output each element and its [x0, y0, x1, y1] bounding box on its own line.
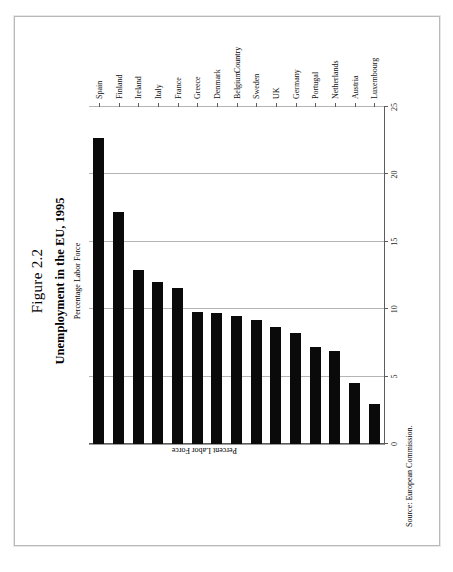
category-tick — [119, 103, 120, 107]
bar — [152, 282, 163, 444]
bar — [290, 333, 301, 444]
bar — [172, 288, 183, 444]
category-tick — [99, 103, 100, 107]
x-tick-label: 20 — [390, 170, 399, 178]
category-label: France — [173, 77, 182, 99]
category-tick — [217, 103, 218, 107]
category-tick — [237, 103, 238, 107]
x-tick-5 — [384, 376, 388, 377]
bar — [310, 347, 321, 444]
bar — [93, 138, 104, 444]
category-tick — [197, 103, 198, 107]
bar — [270, 327, 281, 444]
x-tick-10 — [384, 308, 388, 309]
category-label: Belgium — [232, 71, 241, 99]
figure-rotation-wrapper: Figure 2.2 Unemployment in the EU, 1995 … — [15, 17, 439, 545]
gridline-15 — [89, 241, 384, 242]
category-label: Denmark — [212, 69, 221, 99]
bar — [113, 212, 124, 444]
x-tick-0 — [384, 443, 388, 444]
bar — [192, 312, 203, 444]
bar — [211, 313, 222, 444]
gridline-20 — [89, 173, 384, 174]
figure-header: Figure 2.2 Unemployment in the EU, 1995 … — [27, 31, 82, 531]
x-tick-20 — [384, 173, 388, 174]
category-tick — [355, 103, 356, 107]
category-label: Netherlands — [330, 60, 339, 99]
category-label: Spain — [94, 81, 103, 99]
figure-subtitle: Percentage Labor Force — [73, 31, 82, 531]
figure-number: Figure 2.2 — [29, 31, 46, 531]
category-label: Ireland — [134, 76, 143, 99]
plot-area: 0510152025SpainFinlandIrelandItalyFrance… — [89, 107, 385, 445]
category-label: Portugal — [311, 72, 320, 99]
x-tick-label: 5 — [390, 375, 399, 379]
category-label: Austria — [350, 75, 359, 99]
x-tick-label: 25 — [390, 103, 399, 111]
x-tick-25 — [384, 106, 388, 107]
category-label: Greece — [193, 76, 202, 99]
value-axis-label: Percent Labor Force — [172, 446, 237, 455]
category-label: Germany — [291, 69, 300, 99]
category-tick — [276, 103, 277, 107]
category-tick — [256, 103, 257, 107]
category-label: Luxembourg — [370, 58, 379, 99]
category-tick — [315, 103, 316, 107]
category-tick — [178, 103, 179, 107]
category-label: Italy — [153, 84, 162, 99]
bar — [329, 351, 340, 444]
figure-title: Unemployment in the EU, 1995 — [53, 31, 68, 531]
category-tick — [158, 103, 159, 107]
bar — [251, 320, 262, 444]
figure: Figure 2.2 Unemployment in the EU, 1995 … — [27, 31, 427, 531]
category-tick — [138, 103, 139, 107]
bar — [349, 383, 360, 444]
scanned-page: Figure 2.2 Unemployment in the EU, 1995 … — [14, 16, 440, 546]
category-label: Sweden — [252, 74, 261, 99]
x-tick-label: 15 — [390, 238, 399, 246]
category-axis-label: Country — [233, 47, 242, 73]
x-tick-label: 0 — [390, 442, 399, 446]
category-tick — [335, 103, 336, 107]
category-tick — [296, 103, 297, 107]
bar — [369, 404, 380, 444]
bar — [231, 316, 242, 444]
category-tick — [374, 103, 375, 107]
category-label: UK — [271, 87, 280, 99]
source-note: Source: European Commission. — [405, 425, 414, 527]
x-tick-15 — [384, 241, 388, 242]
x-tick-label: 10 — [390, 305, 399, 313]
category-label: Finland — [114, 75, 123, 99]
bar — [133, 270, 144, 444]
